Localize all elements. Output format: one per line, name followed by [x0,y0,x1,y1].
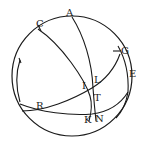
label-n: N [95,113,104,124]
label-k: K [84,114,92,125]
label-t: T [94,92,101,103]
label-a: A [65,7,74,18]
sphere-outline [12,16,132,136]
label-g: G [121,45,129,56]
arc-left-meridian [17,60,20,102]
label-l: L [94,74,101,85]
label-c: C [36,18,44,29]
sphere-diagram: A C G E I L T R K N [0,0,145,148]
label-i: I [82,80,86,91]
label-r: R [36,100,44,111]
arc-right-meridian [116,46,128,118]
label-e: E [129,68,136,79]
